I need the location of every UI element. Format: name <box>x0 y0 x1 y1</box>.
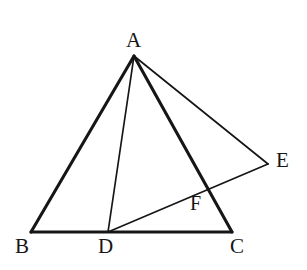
vertex-label-d: D <box>98 236 113 257</box>
vertex-label-e: E <box>276 150 289 171</box>
vertex-label-c: C <box>230 236 244 257</box>
vertex-label-b: B <box>15 236 29 257</box>
figure-background <box>0 0 307 270</box>
vertex-label-f: F <box>190 193 201 213</box>
vertex-label-a: A <box>126 30 141 51</box>
geometry-canvas <box>0 0 307 270</box>
geometry-figure: ABCDEF <box>0 0 307 270</box>
